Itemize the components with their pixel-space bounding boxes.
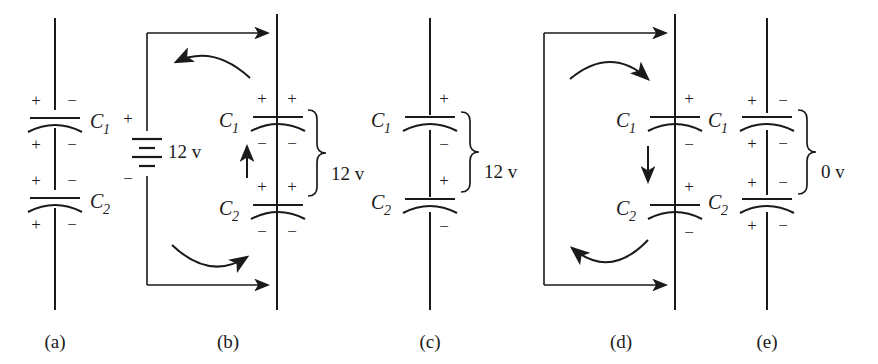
sign-plus-above-left: + [257,177,267,196]
capacitor-label-c2: C [219,197,233,219]
panel-a: + − + − C 1 + − + − C 2 (a) [28,18,110,353]
panel-e-brace [798,110,816,194]
sign-plus-above-right: + [684,177,694,196]
battery-terminal-minus: − [123,169,133,188]
panel-label-b: (b) [217,331,239,353]
panel-d-capacitor-c1: + − C 1 [616,89,702,154]
sign-plus-above-left: + [747,91,757,110]
sign-minus-below-right: − [287,222,297,241]
panel-c-capacitor-c2: + − C 2 [371,171,457,236]
panel-b-current-arrow-top [176,56,250,78]
panel-label-e: (e) [756,331,777,353]
panel-b-brace-voltage-label: 12 v [331,163,365,184]
battery-terminal-plus: + [123,109,133,128]
capacitor-label-c1-subscript: 1 [232,121,239,136]
panel-c-capacitor-c1: + − C 1 [371,89,457,154]
panel-b-brace-group: 12 v [308,110,365,196]
capacitor-label-c1-subscript: 1 [103,122,110,137]
sign-minus-below-right: − [67,135,77,154]
capacitor-label-c2-subscript: 2 [103,202,110,217]
capacitor-label-c2-subscript: 2 [629,209,636,224]
sign-minus-below-left: − [257,134,267,153]
capacitor-label-c1: C [219,109,233,131]
panel-c-brace [461,112,479,192]
sign-minus-below-left: − [257,222,267,241]
sign-minus-above-right: − [778,91,788,110]
panel-c-brace-group: 12 v [461,112,518,192]
panel-e-brace-voltage-label: 0 v [821,161,845,182]
capacitor-label-c1: C [616,109,630,131]
capacitor-label-c1-subscript: 1 [629,121,636,136]
sign-plus-above-right: + [287,177,297,196]
sign-plus-above-left: + [31,171,41,190]
sign-plus-below-left: + [747,134,757,153]
sign-plus-above-left: + [257,89,267,108]
sign-plus-above-right: + [287,89,297,108]
sign-plus-below-left: + [31,215,41,234]
sign-plus-above-right: + [684,89,694,108]
sign-minus-below-right: − [67,215,77,234]
panel-b: + − 12 v + + − − C 1 + + − − C [123,14,365,353]
panel-e-capacitor-c1: + − + − C 1 [708,91,794,153]
capacitor-label-c1: C [708,109,722,131]
capacitor-circuit-figure: + − + − C 1 + − + − C 2 (a) [0,0,878,364]
capacitor-bottom-plate-curved [740,206,794,213]
capacitor-label-c2-subscript: 2 [232,209,239,224]
sign-minus-below-right: − [778,134,788,153]
panel-label-c: (c) [419,331,440,353]
panel-d-current-arrow-bottom [572,240,648,262]
sign-minus-below-right: − [439,135,449,154]
sign-plus-below-left: + [31,135,41,154]
panel-a-capacitor-c1: + − + − C 1 [28,91,110,154]
sign-minus-below-right: − [778,216,788,235]
sign-minus-below-right: − [287,134,297,153]
capacitor-label-c2-subscript: 2 [384,203,391,218]
capacitor-label-c2: C [371,191,385,213]
capacitor-label-c2: C [90,190,104,212]
panel-e-capacitor-c2: + − + − C 2 [708,173,794,235]
sign-minus-above-right: − [778,173,788,192]
panel-d: + − C 1 + − C 2 (d) [544,14,702,353]
panel-e-brace-group: 0 v [798,110,845,194]
sign-plus-above-right: + [439,171,449,190]
capacitor-label-c1-subscript: 1 [721,121,728,136]
figure-canvas: + − + − C 1 + − + − C 2 (a) [0,0,878,364]
sign-plus-above-right: + [439,89,449,108]
capacitor-bottom-plate-curved [403,124,457,131]
panel-c: + − C 1 + − C 2 12 v (c) [371,18,518,353]
sign-plus-below-left: + [747,216,757,235]
panel-label-d: (d) [610,331,632,353]
capacitor-label-c1: C [371,109,385,131]
capacitor-bottom-plate-curved [403,206,457,213]
capacitor-label-c1: C [90,110,104,132]
panel-a-capacitor-c2: + − + − C 2 [28,171,110,234]
sign-plus-above-left: + [31,91,41,110]
sign-minus-above-right: − [67,171,77,190]
panel-d-current-arrow-top [570,62,648,79]
sign-minus-below-right: − [684,135,694,154]
sign-plus-above-left: + [747,173,757,192]
panel-d-capacitor-c2: + − C 2 [616,177,702,242]
capacitor-bottom-plate-curved [740,124,794,131]
battery-voltage-label: 12 v [168,141,202,162]
panel-c-brace-voltage-label: 12 v [484,161,518,182]
capacitor-label-c1-subscript: 1 [384,121,391,136]
capacitor-label-c2: C [616,197,630,219]
panel-e: + − + − C 1 + − + − C 2 0 v (e) [708,18,845,353]
panel-b-battery: + − 12 v [123,109,202,188]
sign-minus-below-right: − [439,217,449,236]
panel-b-brace [308,110,326,196]
sign-minus-below-right: − [684,223,694,242]
panel-b-capacitor-c1: + + − − C 1 [219,89,305,153]
capacitor-label-c2-subscript: 2 [721,203,728,218]
panel-label-a: (a) [44,331,65,353]
sign-minus-above-right: − [67,91,77,110]
panel-b-current-arrow-bottom [172,245,247,267]
capacitor-label-c2: C [708,191,722,213]
panel-b-capacitor-c2: + + − − C 2 [219,177,305,241]
